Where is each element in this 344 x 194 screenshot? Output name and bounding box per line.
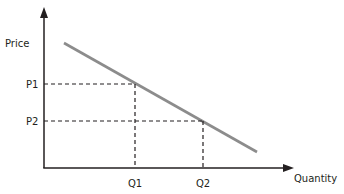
y-axis-label: Price [5, 38, 29, 49]
p1-label: P1 [26, 79, 38, 90]
y-axis-arrow-icon [40, 7, 48, 18]
x-axis-arrow-icon [283, 164, 294, 172]
q1-label: Q1 [128, 178, 142, 189]
q2-label: Q2 [196, 178, 210, 189]
p2-label: P2 [26, 116, 38, 127]
x-axis-label: Quantity [294, 173, 337, 184]
demand-line [64, 43, 257, 152]
demand-curve-diagram: Price P1 P2 Q1 Q2 Quantity [0, 0, 344, 194]
